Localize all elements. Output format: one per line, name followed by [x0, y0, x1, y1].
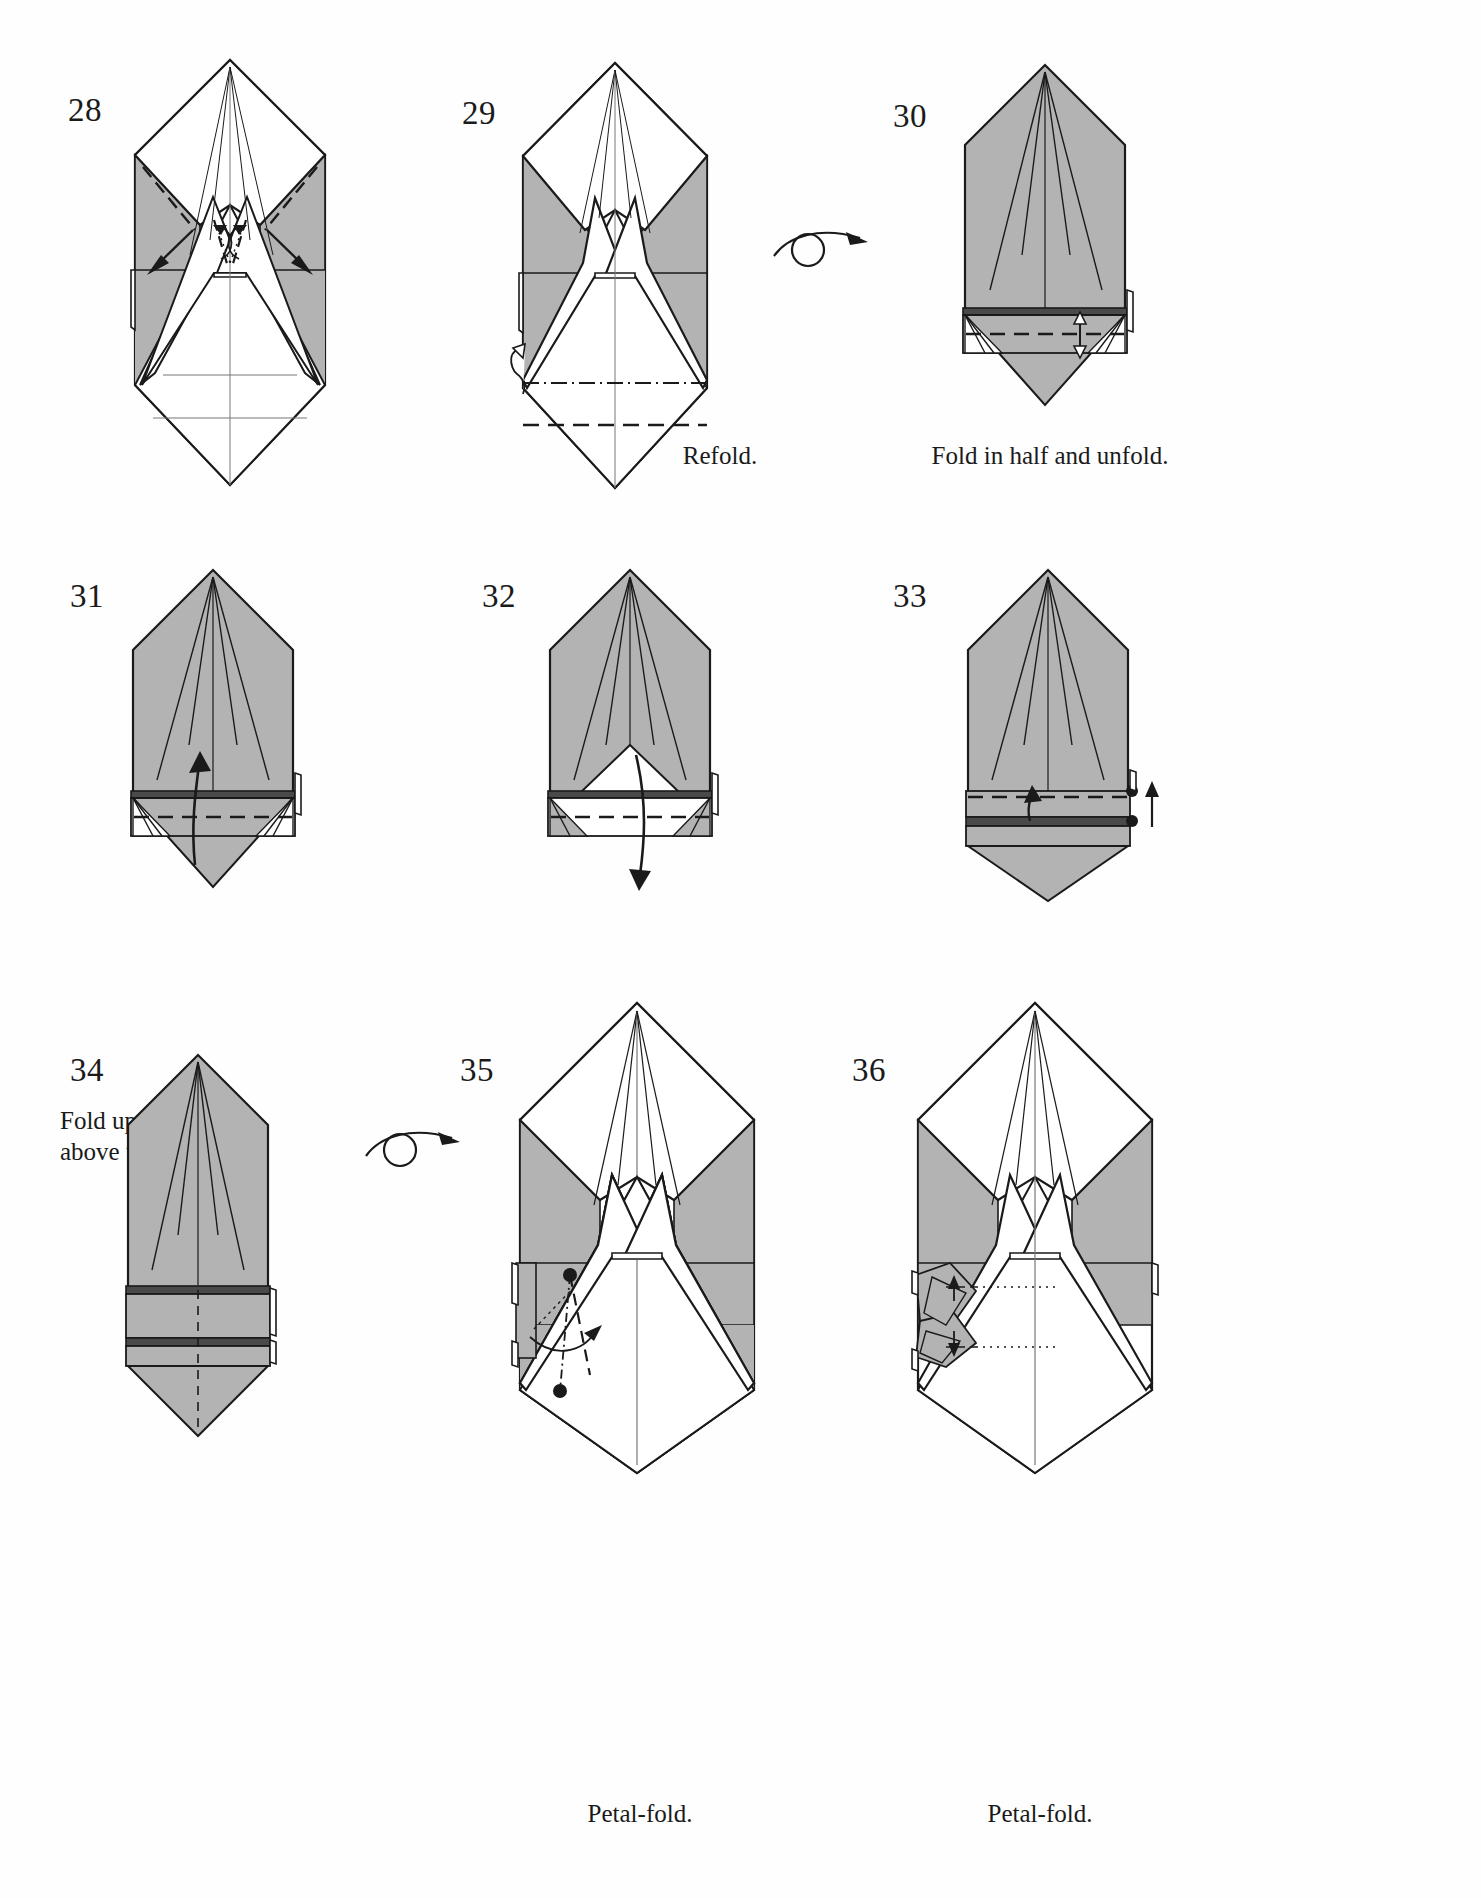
caption-step-36: Petal-fold. — [880, 1798, 1200, 1829]
up-arrow-right — [1145, 781, 1159, 827]
caption-step-35: Petal-fold. — [480, 1798, 800, 1829]
step-number-33: 33 — [893, 578, 927, 615]
figure-step-35 — [482, 995, 792, 1475]
caption-step-29: Refold. — [600, 440, 840, 471]
step-number-32: 32 — [482, 578, 516, 615]
diagram-page: 28 — [0, 0, 1481, 1898]
turn-over-arrow-icon-2 — [352, 1118, 472, 1178]
figure-step-33 — [930, 565, 1180, 925]
caption-step-30: Fold in half and unfold. — [850, 440, 1250, 471]
reference-dot-lower — [1126, 815, 1138, 827]
figure-step-30 — [930, 60, 1160, 430]
figure-step-36 — [880, 995, 1190, 1475]
figure-step-34 — [80, 1040, 330, 1460]
step-number-30: 30 — [893, 98, 927, 135]
figure-step-29 — [495, 58, 735, 498]
step-number-29: 29 — [462, 95, 496, 132]
figure-step-28 — [95, 55, 365, 495]
turn-over-arrow-icon-1 — [760, 218, 880, 278]
figure-step-32 — [512, 565, 752, 915]
figure-step-31 — [95, 565, 335, 915]
